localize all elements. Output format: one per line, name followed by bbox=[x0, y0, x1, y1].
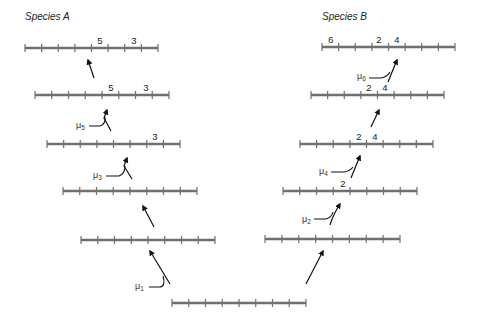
gene-label: 6 bbox=[328, 34, 333, 45]
mutation-label-mu5: μ5 bbox=[76, 120, 85, 131]
chromosome-species-a-1 bbox=[81, 236, 215, 244]
mutation-label-mu3: μ3 bbox=[93, 170, 102, 181]
arrow-left-5-to-4 bbox=[143, 206, 154, 227]
mutation-label-mu6: μ6 bbox=[357, 71, 366, 82]
gene-label: 3 bbox=[152, 131, 157, 142]
gene-label: 3 bbox=[131, 35, 136, 46]
gene-label: 4 bbox=[394, 34, 399, 45]
mu5-hook bbox=[89, 117, 105, 126]
mu2-hook bbox=[314, 212, 333, 219]
gene-label: 4 bbox=[382, 82, 387, 93]
mutation-label-mu1: μ1 bbox=[135, 281, 144, 292]
arrow-right-root-to-5 bbox=[306, 251, 323, 284]
mutation-labels: μ1μ2μ3μ4μ5μ6 bbox=[76, 71, 366, 292]
gene-label: 5 bbox=[97, 35, 102, 46]
chromosome-species-a-3: 3 bbox=[47, 131, 180, 148]
mu3-hook bbox=[106, 166, 125, 176]
gene-label: 2 bbox=[366, 82, 371, 93]
chromosome-species-b-3: 24 bbox=[300, 131, 433, 148]
gene-label: 2 bbox=[356, 131, 361, 142]
chromosome-species-a-2 bbox=[63, 187, 197, 195]
mu6-hook bbox=[369, 72, 390, 78]
mu4-hook bbox=[331, 167, 353, 172]
gene-label: 4 bbox=[372, 131, 377, 142]
chromosome-species-b-2: 2 bbox=[283, 178, 417, 195]
gene-label: 3 bbox=[143, 82, 148, 93]
gene-label: 5 bbox=[108, 82, 113, 93]
gene-label: 2 bbox=[340, 178, 345, 189]
chromosome-evolution-diagram: 3535322424624 μ1μ2μ3μ4μ5μ6 bbox=[0, 0, 478, 325]
chromosome-species-b-4: 24 bbox=[311, 82, 444, 99]
chromosome-species-a-4: 53 bbox=[35, 82, 169, 99]
arrow-left-2-to-1 bbox=[88, 60, 94, 78]
arrow-left-root-to-5 bbox=[150, 251, 170, 284]
gene-label: 2 bbox=[376, 34, 381, 45]
chromosome-species-b-5: 624 bbox=[322, 34, 455, 51]
mutation-label-mu4: μ4 bbox=[319, 166, 328, 177]
chromosome-ancestral bbox=[172, 299, 306, 307]
chromosome-species-b-1 bbox=[265, 235, 400, 243]
mu1-hook bbox=[149, 276, 164, 287]
chromosome-species-a-5: 53 bbox=[25, 35, 158, 52]
arrow-right-3-to-2 bbox=[371, 110, 379, 127]
arrow-right-2-to-1 bbox=[388, 60, 397, 82]
mutation-label-mu2: μ2 bbox=[302, 214, 311, 225]
